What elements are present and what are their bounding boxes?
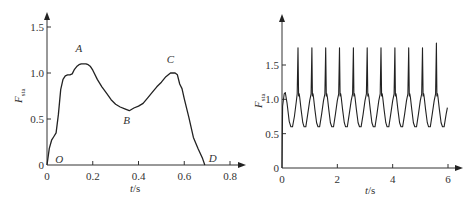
x-unit: /s xyxy=(133,182,140,194)
x-tick-label: 0 xyxy=(44,170,50,182)
left-x-axis-label: t/s xyxy=(130,182,140,194)
point-label-o: O xyxy=(55,153,63,165)
x-tick-label: 0.6 xyxy=(177,170,191,182)
x-tick-label: 0.8 xyxy=(223,170,237,182)
point-label-c: C xyxy=(167,53,175,65)
y-sub: sta xyxy=(259,93,267,102)
right-x-ticks: 0246 xyxy=(279,164,451,185)
figure: 00.20.40.60.8 00.51.01.5 OABCD t/s Fsta … xyxy=(0,0,464,209)
x-tick-label: 0.2 xyxy=(86,170,100,182)
y-tick-label: 0.5 xyxy=(265,128,279,140)
y-tick-label: 1.0 xyxy=(30,67,44,79)
y-tick-label: 0 xyxy=(39,159,45,171)
x-unit: /s xyxy=(368,184,375,196)
point-label-b: B xyxy=(123,114,130,126)
left-y-axis-label: Fsta xyxy=(12,88,27,104)
right-chart: 0246 00.51.01.5 t/s Fsta xyxy=(252,18,459,196)
x-tick-label: 2 xyxy=(335,173,341,185)
x-tick-label: 4 xyxy=(390,173,396,185)
left-x-ticks: 00.20.40.60.8 xyxy=(44,161,237,182)
point-label-d: D xyxy=(208,152,217,164)
y-tick-label: 1.0 xyxy=(265,93,279,105)
left-chart: 00.20.40.60.8 00.51.01.5 OABCD t/s Fsta xyxy=(12,16,242,194)
point-label-a: A xyxy=(75,42,83,54)
left-point-labels: OABCD xyxy=(55,42,217,165)
y-tick-label: 1.5 xyxy=(30,21,44,33)
y-tick-label: 0.5 xyxy=(30,113,44,125)
x-tick-label: 0.4 xyxy=(132,170,146,182)
x-tick-label: 6 xyxy=(445,173,451,185)
right-force-curve xyxy=(282,43,447,168)
x-tick-label: 0 xyxy=(279,173,285,185)
right-y-axis-label: Fsta xyxy=(252,93,267,109)
y-tick-label: 0 xyxy=(274,162,280,174)
y-sub: sta xyxy=(19,88,27,97)
y-tick-label: 1.5 xyxy=(265,59,279,71)
right-x-axis-label: t/s xyxy=(365,184,375,196)
left-y-ticks: 00.51.01.5 xyxy=(30,21,51,171)
